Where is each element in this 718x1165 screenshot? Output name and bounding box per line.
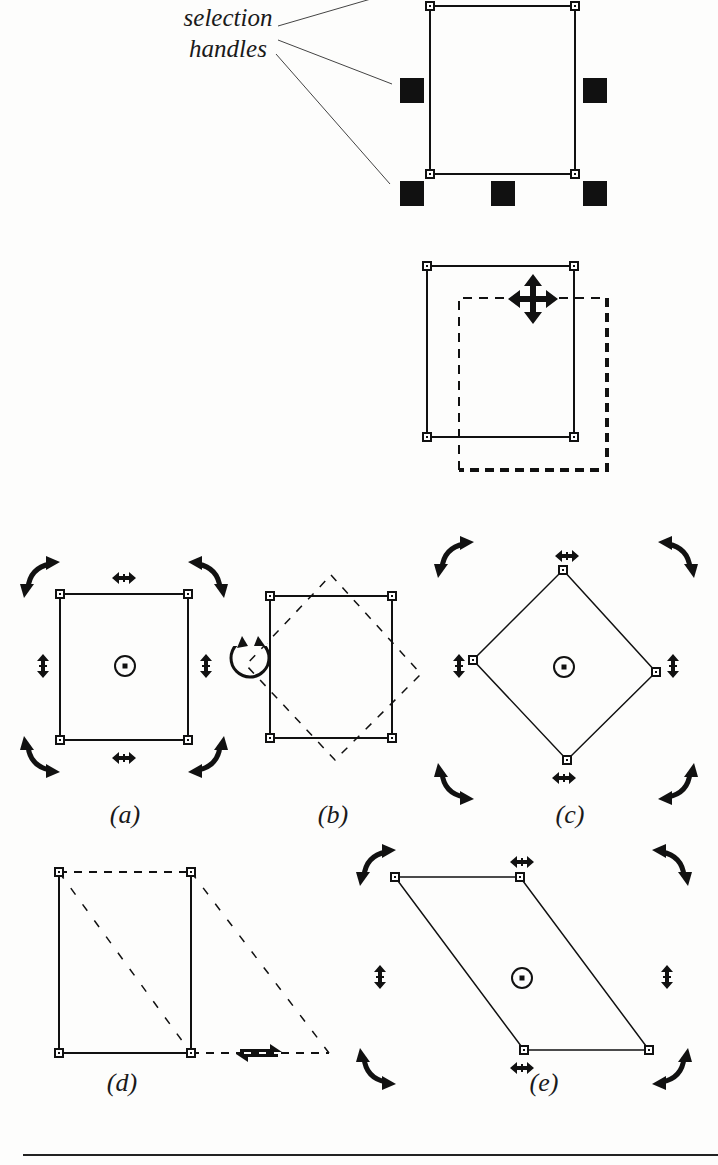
selection-handle-right <box>583 78 607 103</box>
figure-d <box>55 868 329 1062</box>
selection-handle-left <box>400 78 424 103</box>
selection-handle-bottom <box>491 181 515 206</box>
rotate-handle-bottom-left-icon <box>356 1048 396 1090</box>
selection-handle-bottom-right <box>583 181 607 206</box>
caption-b: (b) <box>318 800 348 830</box>
rotate-handle-bottom-right-icon <box>652 1048 692 1090</box>
selection-figure <box>276 0 607 206</box>
skewed-outline <box>59 872 191 1053</box>
skew-handle-bottom-icon <box>552 772 576 784</box>
rotated-outline <box>246 575 421 760</box>
move-cursor-icon <box>508 274 558 324</box>
skew-handle-top-icon <box>555 550 579 562</box>
caption-d: (d) <box>107 1068 137 1098</box>
skew-handle-left-icon <box>374 965 386 989</box>
rotate-handle-top-right-icon <box>658 536 698 578</box>
skew-handle-right-icon <box>667 654 679 678</box>
skewed-outline <box>191 872 329 1053</box>
rotate-handle-bottom-left-icon <box>434 763 474 805</box>
label-line-2: handles <box>158 33 298 64</box>
skew-handle-right-icon <box>661 965 673 989</box>
skew-handle-bottom-icon <box>112 752 136 764</box>
rotate-handle-top-right-icon <box>652 844 692 886</box>
caption-c: (c) <box>556 800 585 830</box>
caption-a: (a) <box>110 800 140 830</box>
figure-a <box>20 556 228 778</box>
rotate-handle-bottom-right-icon <box>188 736 228 778</box>
rotate-handle-bottom-left-icon <box>20 736 60 778</box>
rotate-handle-top-left-icon <box>20 556 60 598</box>
rectangle <box>270 596 392 738</box>
original-rectangle <box>427 266 574 437</box>
rotate-handle-top-right-icon <box>188 556 228 598</box>
skew-handle-top-icon <box>510 856 534 868</box>
figure-c <box>434 536 698 805</box>
selection-handles-label: selection handles <box>158 2 298 64</box>
selected-rectangle <box>430 6 575 174</box>
label-line-1: selection <box>158 2 298 33</box>
skew-handle-top-icon <box>112 572 136 584</box>
rotate-cursor-icon <box>231 636 269 677</box>
caption-e: (e) <box>530 1068 559 1098</box>
skew-handle-right-icon <box>200 654 212 678</box>
move-figure <box>423 262 607 470</box>
rotate-handle-bottom-right-icon <box>658 763 698 805</box>
center-of-rotation-icon <box>512 968 532 988</box>
center-of-rotation-icon <box>554 657 574 677</box>
figure-e <box>356 844 692 1090</box>
skew-handle-left-icon <box>453 654 465 678</box>
rotate-handle-top-left-icon <box>434 536 474 578</box>
figure-b <box>231 575 421 760</box>
callout-line <box>276 54 390 184</box>
skew-handle-left-icon <box>37 654 49 678</box>
center-of-rotation-icon <box>115 656 135 676</box>
skewed-parallelogram <box>395 877 649 1050</box>
horizontal-rule <box>23 1154 718 1156</box>
selection-handle-bottom-left <box>400 181 424 206</box>
figure-canvas <box>0 0 718 1165</box>
